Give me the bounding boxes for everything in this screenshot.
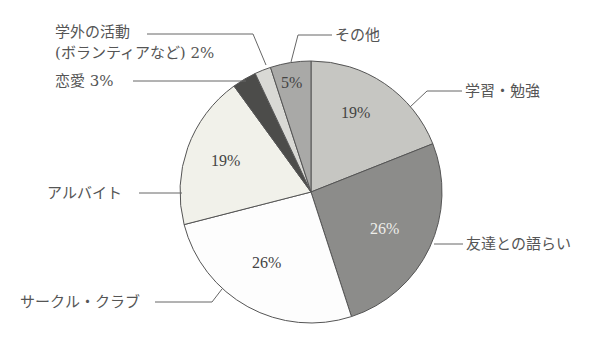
pie-slices: [180, 61, 442, 323]
label-other: その他: [335, 26, 380, 44]
label-friends: 友達との語らい: [466, 235, 571, 253]
pct-other: 5%: [281, 74, 302, 92]
label-study: 学習・勉強: [465, 82, 540, 100]
label-parttime: アルバイト: [47, 184, 122, 202]
pct-parttime: 19%: [211, 152, 240, 170]
label-outside-activities-line1: 学外の活動: [55, 23, 130, 41]
label-outside-activities-line2: (ボランティアなど) 2%: [55, 44, 214, 62]
pct-circle: 26%: [252, 254, 281, 272]
pct-study: 19%: [341, 104, 370, 122]
label-circle: サークル・クラブ: [20, 293, 140, 311]
label-love: 恋愛 3%: [55, 72, 114, 90]
pct-friends: 26%: [370, 220, 399, 238]
